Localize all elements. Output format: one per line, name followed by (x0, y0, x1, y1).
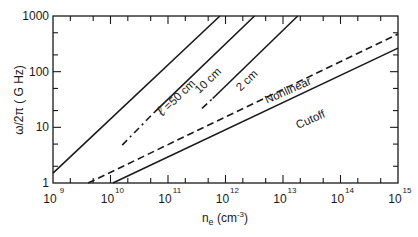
x-title-base: n (202, 211, 209, 225)
series-50-cm (53, 16, 220, 173)
y-tick-label: 1 (42, 176, 49, 190)
series-label: Cutoff (294, 107, 327, 131)
data-series (53, 16, 398, 183)
series-segment-dashdot (202, 99, 213, 109)
x-axis-title: ne (cm-3) (202, 210, 248, 227)
series-segment-solid (53, 16, 220, 173)
x-tick-exponent: 10 (115, 186, 124, 195)
x-tick-labels: 109101010111012101310141015 (43, 186, 412, 206)
x-tick-label: 10 (331, 192, 345, 206)
x-tick-label: 10 (388, 192, 402, 206)
x-tick-label: 10 (43, 192, 57, 206)
series-label: 10 cm (192, 65, 223, 95)
y-tick-labels: 1101001000 (22, 9, 49, 190)
series-cutoff (113, 48, 398, 183)
series-segment-solid (113, 48, 398, 183)
y-axis-title: ω/2π ( G Hz) (12, 65, 26, 135)
y-tick-label: 10 (36, 120, 50, 134)
series-labels: ℓ =50 cm10 cm2 cmNonlinearCutoff (153, 65, 328, 131)
x-tick-label: 10 (273, 192, 287, 206)
plot-frame (53, 16, 398, 183)
y-tick-label: 100 (29, 65, 49, 79)
series-label: ℓ =50 cm (153, 75, 198, 119)
log-log-plot: 109101010111012101310141015 1101001000 ℓ… (0, 0, 418, 237)
x-tick-exponent: 13 (288, 186, 297, 195)
axis-ticks (53, 16, 398, 183)
series-nonlinear (88, 34, 398, 183)
x-tick-label: 10 (158, 192, 172, 206)
x-title-unit: (cm (214, 211, 237, 225)
x-tick-label: 10 (216, 192, 230, 206)
series-segment-dashed (88, 34, 398, 183)
chart-container: 109101010111012101310141015 1101001000 ℓ… (0, 0, 418, 237)
series-segment-dashdot (122, 112, 155, 145)
x-tick-exponent: 12 (230, 186, 239, 195)
x-tick-exponent: 15 (403, 186, 412, 195)
x-tick-exponent: 9 (60, 186, 65, 195)
x-tick-exponent: 11 (173, 186, 182, 195)
x-tick-exponent: 14 (345, 186, 354, 195)
x-title-close: ) (244, 211, 248, 225)
x-tick-label: 10 (101, 192, 115, 206)
y-tick-label: 1000 (22, 9, 49, 23)
series-label: 2 cm (233, 67, 259, 93)
